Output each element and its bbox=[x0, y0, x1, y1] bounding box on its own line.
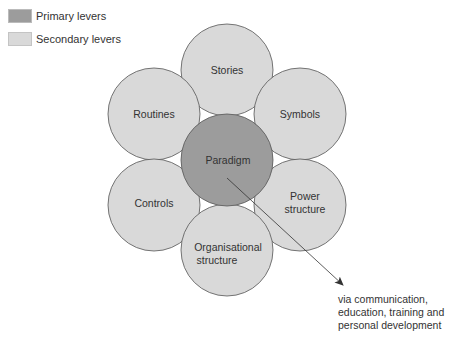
paradigm-label: Paradigm bbox=[206, 154, 251, 166]
org-label-1: Organisational bbox=[194, 241, 262, 253]
routines-label: Routines bbox=[133, 108, 174, 120]
annotation-line-3: personal development bbox=[338, 319, 463, 332]
stories-label: Stories bbox=[211, 64, 244, 76]
power-label-1: Power bbox=[290, 190, 320, 202]
symbols-label: Symbols bbox=[280, 108, 320, 120]
annotation-line-1: via communication, bbox=[338, 293, 463, 306]
org-label-2: structure bbox=[197, 254, 238, 266]
power-label-2: structure bbox=[285, 203, 326, 215]
controls-label: Controls bbox=[134, 197, 173, 209]
annotation-line-2: education, training and bbox=[338, 306, 463, 319]
cultural-web-diagram: Stories Routines Symbols Controls Power … bbox=[0, 0, 463, 342]
annotation: via communication, education, training a… bbox=[338, 293, 463, 332]
